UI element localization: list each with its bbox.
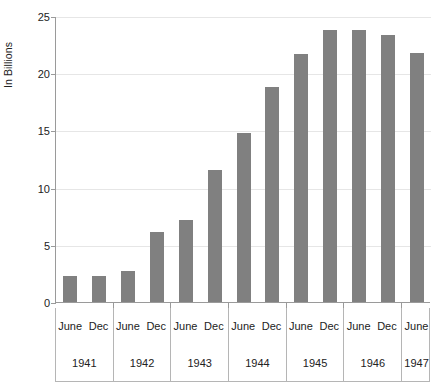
bar bbox=[92, 276, 106, 302]
month-row: JuneDec bbox=[56, 308, 113, 344]
month-label: Dec bbox=[257, 320, 285, 332]
year-group: JuneDec1941 bbox=[56, 308, 114, 381]
y-axis-tick bbox=[51, 131, 56, 132]
y-axis-tick-labels: 0510152025 bbox=[22, 17, 50, 303]
y-axis-tick-label: 0 bbox=[26, 298, 50, 309]
year-label: 1941 bbox=[56, 344, 113, 381]
bar bbox=[150, 232, 164, 302]
bar bbox=[352, 30, 366, 302]
bar bbox=[237, 133, 251, 302]
y-axis-tick-label: 10 bbox=[26, 184, 50, 195]
month-label: Dec bbox=[200, 320, 228, 332]
y-axis-tick-label: 5 bbox=[26, 241, 50, 252]
x-axis-tick bbox=[228, 303, 229, 308]
month-label: June bbox=[344, 320, 372, 332]
y-axis-tick bbox=[51, 303, 56, 304]
year-group: JuneDec1946 bbox=[344, 308, 402, 381]
month-label: Dec bbox=[84, 320, 112, 332]
plot-area bbox=[55, 17, 430, 303]
gridline bbox=[56, 74, 431, 75]
month-row: JuneDec bbox=[114, 308, 171, 344]
year-group: June1947 bbox=[402, 308, 431, 381]
year-group: JuneDec1944 bbox=[229, 308, 287, 381]
year-label: 1943 bbox=[171, 344, 228, 381]
month-label: Dec bbox=[142, 320, 170, 332]
bar bbox=[63, 276, 77, 302]
y-axis-tick bbox=[51, 246, 56, 247]
year-label: 1947 bbox=[402, 344, 431, 381]
year-label: 1944 bbox=[229, 344, 286, 381]
bar bbox=[410, 53, 424, 302]
month-label: Dec bbox=[373, 320, 401, 332]
month-row: JuneDec bbox=[171, 308, 228, 344]
gridline bbox=[56, 17, 431, 18]
month-row: JuneDec bbox=[229, 308, 286, 344]
x-axis-tick bbox=[401, 303, 402, 308]
bar bbox=[294, 54, 308, 302]
x-axis-label-table: JuneDec1941JuneDec1942JuneDec1943JuneDec… bbox=[55, 308, 430, 382]
bar bbox=[179, 220, 193, 302]
month-label: June bbox=[287, 320, 315, 332]
y-axis-tick-label: 15 bbox=[26, 126, 50, 137]
year-label: 1945 bbox=[287, 344, 344, 381]
bar bbox=[323, 30, 337, 302]
bar bbox=[121, 271, 135, 302]
bar bbox=[208, 170, 222, 302]
month-label: June bbox=[171, 320, 199, 332]
x-axis-tick bbox=[286, 303, 287, 308]
bar-chart: In Billions 0510152025 JuneDec1941JuneDe… bbox=[0, 0, 435, 392]
month-row: June bbox=[402, 308, 431, 344]
y-axis-tick bbox=[51, 189, 56, 190]
month-row: JuneDec bbox=[344, 308, 401, 344]
month-label: Dec bbox=[315, 320, 343, 332]
month-label: June bbox=[402, 320, 431, 332]
x-axis-tick bbox=[343, 303, 344, 308]
year-label: 1942 bbox=[114, 344, 171, 381]
year-group: JuneDec1943 bbox=[171, 308, 229, 381]
y-axis-title: In Billions bbox=[2, 10, 18, 120]
bar bbox=[381, 35, 395, 302]
year-group: JuneDec1942 bbox=[114, 308, 172, 381]
y-axis-tick-label: 20 bbox=[26, 69, 50, 80]
y-axis-tick bbox=[51, 74, 56, 75]
bar bbox=[265, 87, 279, 302]
month-label: June bbox=[114, 320, 142, 332]
year-group: JuneDec1945 bbox=[287, 308, 345, 381]
year-label: 1946 bbox=[344, 344, 401, 381]
x-axis-tick bbox=[113, 303, 114, 308]
month-label: June bbox=[229, 320, 257, 332]
month-label: June bbox=[56, 320, 84, 332]
y-axis-tick-label: 25 bbox=[26, 12, 50, 23]
x-axis-tick bbox=[170, 303, 171, 308]
y-axis-tick bbox=[51, 17, 56, 18]
month-row: JuneDec bbox=[287, 308, 344, 344]
